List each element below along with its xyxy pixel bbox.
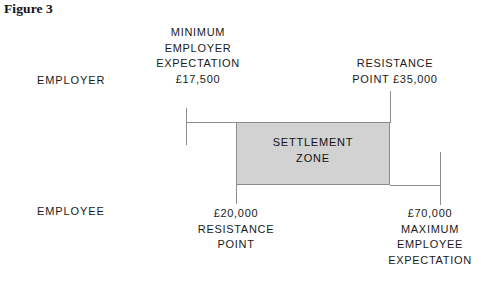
callout-line: POINT — [186, 237, 286, 253]
callout-value: £70,000 — [378, 206, 481, 222]
callout-minimum-employer-expectation: MINIMUM EMPLOYER EXPECTATION £17,500 — [143, 25, 253, 87]
callout-line: EXPECTATION — [378, 253, 481, 269]
zone-label-line: SETTLEMENT — [236, 135, 390, 151]
callout-line: MAXIMUM — [378, 222, 481, 238]
callout-employee-resistance-point: £20,000 RESISTANCE POINT — [186, 206, 286, 253]
axis-label-employee: EMPLOYEE — [37, 205, 105, 217]
callout-line: EMPLOYEE — [378, 237, 481, 253]
leader-line-minimum-employer — [186, 108, 187, 123]
callout-line: EMPLOYER — [143, 41, 253, 57]
axis-label-employer: EMPLOYER — [37, 74, 105, 86]
callout-employer-resistance-point: RESISTANCE POINT £35,000 — [339, 56, 451, 87]
callout-line: MINIMUM — [143, 25, 253, 41]
callout-value: POINT £35,000 — [339, 72, 451, 88]
zone-label-line: ZONE — [236, 151, 390, 167]
callout-maximum-employee-expectation: £70,000 MAXIMUM EMPLOYEE EXPECTATION — [378, 206, 481, 268]
leader-line-employer-resistance — [390, 91, 391, 123]
leader-line-employee-resistance — [236, 185, 237, 204]
tick-employee-maximum — [440, 152, 441, 205]
callout-line: EXPECTATION — [143, 56, 253, 72]
figure-title: Figure 3 — [4, 1, 53, 17]
callout-line: RESISTANCE — [186, 222, 286, 238]
employee-range-arm — [390, 185, 441, 186]
employer-range-arm — [186, 122, 237, 123]
callout-value: £20,000 — [186, 206, 286, 222]
callout-value: £17,500 — [143, 72, 253, 88]
callout-line: RESISTANCE — [339, 56, 451, 72]
settlement-zone-label: SETTLEMENT ZONE — [236, 135, 390, 166]
tick-employer-minimum — [186, 122, 187, 145]
figure-canvas: Figure 3 EMPLOYER EMPLOYEE MINIMUM EMPLO… — [0, 0, 481, 286]
